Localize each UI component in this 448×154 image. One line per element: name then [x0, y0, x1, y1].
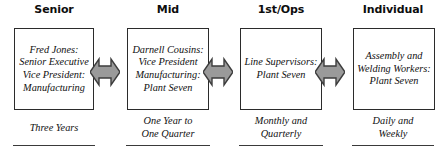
- box-individual: Assembly and Welding Workers: Plant Seve…: [353, 28, 435, 110]
- column-header-firstops: 1st/Ops: [258, 0, 305, 20]
- column-individual: Individual Assembly and Welding Workers:…: [344, 0, 442, 154]
- underline-senior: [13, 145, 95, 146]
- double-arrow-senior-mid-icon: [90, 55, 120, 89]
- box-text-individual: Assembly and Welding Workers: Plant Seve…: [357, 50, 430, 88]
- box-text-firstops: Line Supervisors: Plant Seven: [245, 56, 318, 81]
- underline-mid: [126, 145, 210, 146]
- column-senior: Senior Fred Jones: Senior Executive Vice…: [8, 0, 100, 154]
- caption-individual: Daily and Weekly: [344, 115, 442, 140]
- caption-mid: One Year to One Quarter: [120, 115, 216, 140]
- column-header-mid: Mid: [157, 0, 179, 20]
- caption-senior: Three Years: [8, 122, 100, 135]
- underline-firstops: [239, 145, 323, 146]
- column-header-senior: Senior: [34, 0, 73, 20]
- caption-firstops: Monthly and Quarterly: [232, 115, 330, 140]
- column-header-individual: Individual: [363, 0, 423, 20]
- box-firstops: Line Supervisors: Plant Seven: [240, 28, 322, 110]
- org-levels-diagram: Senior Fred Jones: Senior Executive Vice…: [0, 0, 448, 154]
- box-senior: Fred Jones: Senior Executive Vice Presid…: [14, 28, 94, 110]
- double-arrow-firstops-individual-icon: [315, 55, 345, 89]
- double-arrow-mid-firstops-icon: [203, 55, 233, 89]
- box-text-senior: Fred Jones: Senior Executive Vice Presid…: [19, 44, 88, 94]
- box-text-mid: Darnell Cousins: Vice President Manufact…: [132, 44, 203, 94]
- underline-individual: [352, 145, 434, 146]
- column-mid: Mid Darnell Cousins: Vice President Manu…: [120, 0, 216, 154]
- box-mid: Darnell Cousins: Vice President Manufact…: [127, 28, 209, 110]
